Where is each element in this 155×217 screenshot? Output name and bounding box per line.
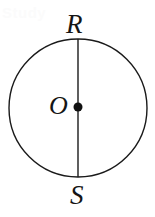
geometry-figure: Study R O S <box>0 0 155 217</box>
point-label-s: S <box>70 182 84 209</box>
point-label-r: R <box>66 11 83 38</box>
center-point-dot <box>74 103 83 112</box>
point-label-o: O <box>49 93 68 119</box>
